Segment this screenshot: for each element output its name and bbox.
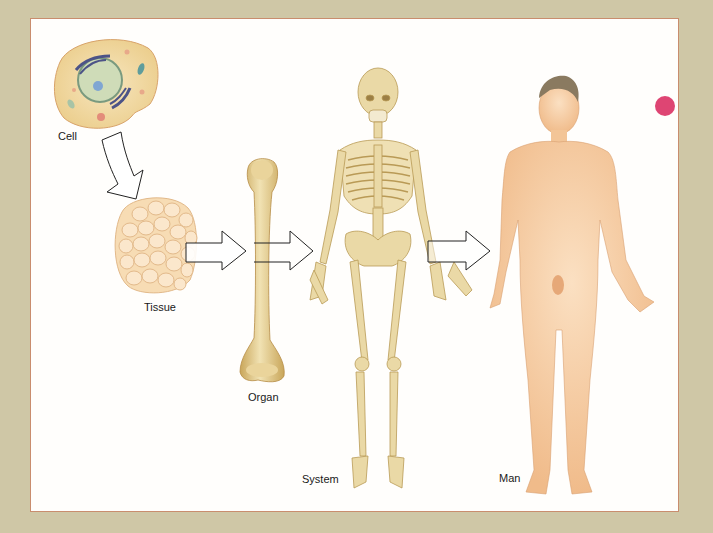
label-tissue: Tissue [144, 301, 176, 313]
red-mark [655, 96, 675, 116]
diagram-illustration [0, 0, 713, 533]
skeleton-illustration [310, 68, 472, 488]
human-figure-illustration [490, 76, 654, 494]
arrow-cell-to-tissue [102, 132, 143, 199]
organ-illustration [240, 159, 284, 382]
tissue-illustration [115, 198, 197, 293]
label-cell: Cell [58, 130, 77, 142]
label-man: Man [499, 472, 520, 484]
label-system: System [302, 473, 339, 485]
label-organ: Organ [248, 391, 279, 403]
cell-illustration [54, 40, 158, 129]
